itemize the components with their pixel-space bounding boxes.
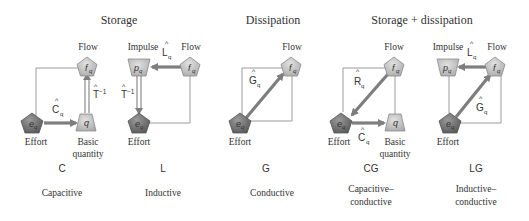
svg-text:^: ^ bbox=[356, 68, 360, 75]
svg-text:^: ^ bbox=[252, 68, 256, 75]
label-flow: Flow bbox=[181, 42, 201, 52]
panel-name: Capacitive bbox=[42, 188, 83, 198]
svg-text:q: q bbox=[257, 82, 260, 88]
operator-G: G bbox=[476, 102, 484, 113]
panel-inductive-conductive: Impulse Flow p q f q e q ^ L q ^ G q Eff… bbox=[433, 40, 507, 207]
label-quantity: quantity bbox=[72, 149, 103, 159]
panel-name-line1: Inductive– bbox=[456, 184, 497, 194]
label-effort: Effort bbox=[25, 137, 48, 147]
label-basic: Basic bbox=[384, 137, 405, 147]
group-title-storage: Storage bbox=[101, 13, 138, 27]
panel-name: Conductive bbox=[250, 188, 294, 198]
label-basic: Basic bbox=[77, 137, 98, 147]
svg-text:^: ^ bbox=[55, 97, 59, 104]
svg-text:q: q bbox=[168, 54, 171, 60]
svg-text:q: q bbox=[484, 109, 487, 115]
label-flow: Flow bbox=[78, 42, 98, 52]
label-flow: Flow bbox=[384, 42, 404, 52]
quantity-symbol: q bbox=[393, 118, 398, 128]
panel-name-line2: conductive bbox=[455, 197, 497, 207]
panel-name-line1: Capacitive– bbox=[348, 184, 394, 194]
frame-line bbox=[145, 74, 190, 123]
group-title-storage-dissipation: Storage + dissipation bbox=[371, 13, 472, 27]
panel-name: Inductive bbox=[145, 188, 181, 198]
svg-text:−1: −1 bbox=[99, 88, 107, 95]
operator-G: G bbox=[249, 75, 257, 86]
label-quantity: quantity bbox=[379, 149, 410, 159]
label-effort: Effort bbox=[437, 137, 460, 147]
label-flow: Flow bbox=[282, 42, 302, 52]
label-effort: Effort bbox=[229, 137, 252, 147]
label-impulse: Impulse bbox=[128, 42, 159, 52]
label-impulse: Impulse bbox=[433, 42, 464, 52]
panel-code: CG bbox=[364, 163, 379, 174]
svg-text:−1: −1 bbox=[127, 88, 135, 95]
group-title-dissipation: Dissipation bbox=[246, 13, 301, 27]
svg-text:^: ^ bbox=[165, 40, 169, 47]
panel-code: L bbox=[160, 163, 166, 174]
diagram-canvas: Storage Dissipation Storage + dissipatio… bbox=[0, 0, 529, 221]
svg-text:q: q bbox=[473, 54, 476, 60]
label-flow: Flow bbox=[487, 42, 507, 52]
svg-text:^: ^ bbox=[479, 95, 483, 102]
label-effort: Effort bbox=[128, 137, 151, 147]
frame-line-left bbox=[343, 68, 385, 112]
operator-C: C bbox=[52, 104, 59, 115]
panel-name-line2: conductive bbox=[350, 197, 392, 207]
panel-code: C bbox=[58, 163, 65, 174]
panel-conductive: Flow f q e q ^ G q Effort G Conductive bbox=[229, 42, 302, 198]
panel-code: LG bbox=[469, 163, 483, 174]
quantity-symbol: q bbox=[84, 118, 89, 128]
svg-text:q: q bbox=[60, 111, 63, 117]
svg-text:q: q bbox=[361, 83, 364, 89]
panel-capacitive-conductive: Flow f q q e q ^ R q ^ C q Effort Basic … bbox=[328, 42, 411, 207]
operator-C: C bbox=[358, 132, 365, 143]
panel-inductive: Impulse Flow p q f q e q ^ L q ^ T −1 Ef… bbox=[121, 40, 201, 198]
panel-capacitive: Flow f q q e q ^ C q ^ T −1 Effort Basic… bbox=[21, 42, 107, 198]
label-effort: Effort bbox=[328, 137, 351, 147]
svg-text:q: q bbox=[366, 139, 369, 145]
panel-code: G bbox=[262, 163, 270, 174]
svg-text:^: ^ bbox=[470, 40, 474, 47]
